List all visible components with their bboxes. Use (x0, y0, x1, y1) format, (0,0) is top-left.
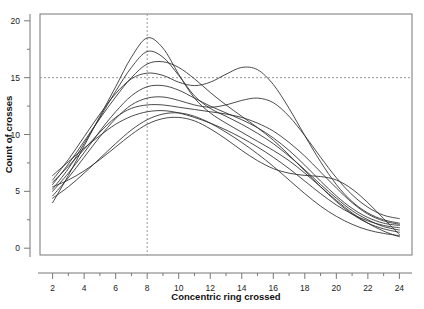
x-tick-label: 22 (363, 283, 373, 293)
series-line (53, 67, 400, 223)
y-tick-label: 20 (11, 16, 21, 26)
series-lines (53, 38, 400, 237)
x-tick-label: 24 (395, 283, 405, 293)
series-line (53, 97, 400, 219)
line-chart: 24681012141618202224 05101520 Concentric… (0, 0, 424, 309)
x-axis-title: Concentric ring crossed (171, 291, 280, 302)
y-tick-label: 15 (11, 73, 21, 83)
series-line (53, 105, 400, 225)
x-tick-label: 18 (300, 283, 310, 293)
x-tick-label: 2 (50, 283, 55, 293)
plot-frame (40, 14, 412, 255)
y-tick-label: 5 (15, 186, 20, 196)
reference-lines (40, 14, 412, 255)
chart-container: 24681012141618202224 05101520 Concentric… (0, 0, 424, 309)
x-tick-label: 4 (82, 283, 87, 293)
x-tick-label: 8 (145, 283, 150, 293)
series-line (53, 117, 400, 234)
y-tick-label: 0 (15, 243, 20, 253)
x-tick-label: 6 (113, 283, 118, 293)
x-tick-label: 20 (332, 283, 342, 293)
x-axis: 24681012141618202224 (38, 273, 412, 293)
y-axis-title: Count of crosses (3, 96, 14, 174)
plot-frame-rect (40, 14, 412, 255)
